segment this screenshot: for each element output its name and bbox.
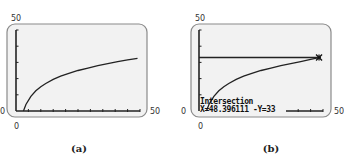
calculator-screen-b	[171, 0, 342, 158]
calculator-screen-a	[0, 0, 171, 158]
y-min-label: 0	[198, 122, 203, 131]
y-max-label: 50	[195, 14, 205, 23]
caption-b: (b)	[251, 143, 291, 154]
graph-panel-b: 50 0 50 0 Intersection X=48.396111 -Y=33…	[171, 0, 342, 158]
x-max-label: 50	[334, 107, 344, 116]
intersection-values: X=48.396111 -Y=33	[200, 106, 275, 114]
x-max-label: 50	[150, 107, 160, 116]
y-min-label: 0	[14, 122, 19, 131]
graph-panel-a: 50 0 50 0 (a)	[0, 0, 171, 158]
x-min-label: 0	[0, 107, 5, 116]
x-min-label: 0	[181, 107, 186, 116]
caption-a: (a)	[59, 143, 99, 154]
y-max-label: 50	[11, 14, 21, 23]
